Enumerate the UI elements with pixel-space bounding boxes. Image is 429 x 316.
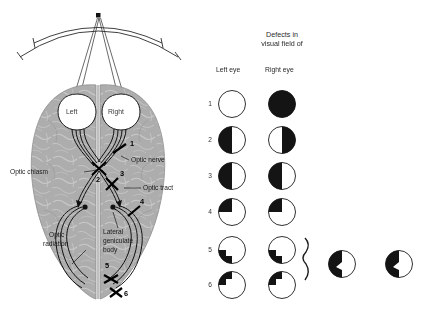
fixation-point-marker	[96, 13, 101, 18]
defect-row-number-2: 2	[202, 136, 212, 144]
column-title-left-eye: Left eye	[216, 66, 240, 74]
lesion-number-3: 3	[120, 170, 124, 179]
defect-row-number-5: 5	[202, 246, 212, 254]
defect-row-6	[219, 272, 296, 299]
label-optic-chiasm: Optic chiasm	[10, 168, 48, 176]
defect-row-1	[219, 91, 296, 118]
visual-field-arc	[17, 28, 181, 61]
defect-left-eye-1	[219, 91, 246, 118]
label-optic-tract: Optic tract	[143, 184, 173, 192]
eye-label-right: Right	[108, 108, 124, 116]
lesion-number-4: 4	[140, 198, 144, 207]
lesion-number-6: 6	[124, 290, 128, 299]
label-optic-radiation-line2: radiation	[43, 240, 68, 248]
defect-row-number-6: 6	[202, 281, 212, 289]
lesion-number-5: 5	[105, 262, 109, 271]
label-optic-nerve: Optic nerve	[131, 156, 165, 164]
defect-chart-title-line2: visual field of	[232, 40, 332, 48]
lesion-number-2: 2	[96, 176, 100, 185]
label-lgb-line1: Lateral	[103, 228, 123, 236]
defect-right-eye-1	[269, 91, 296, 118]
brain-axial-section	[31, 85, 164, 299]
column-title-right-eye: Right eye	[265, 66, 294, 74]
defect-row-number-3: 3	[202, 172, 212, 180]
defect-row-3	[218, 163, 295, 190]
label-lgb-line3: body	[103, 246, 117, 254]
figure-canvas	[0, 0, 429, 316]
visual-pathway-figure: Defects in visual field of Left eye Righ…	[0, 0, 429, 316]
defect-row-number-4: 4	[202, 208, 212, 216]
brace-rows-5-6	[303, 238, 308, 280]
defect-macular-sparing-extra-2	[386, 251, 413, 278]
sight-lines	[74, 18, 124, 96]
defect-row-5	[219, 237, 296, 264]
eye-label-left: Left	[66, 108, 77, 116]
lesion-number-1: 1	[130, 140, 134, 149]
defect-row-2	[218, 127, 295, 154]
defect-row-number-1: 1	[202, 100, 212, 108]
defect-row-4	[219, 199, 296, 226]
label-lgb-line2: geniculate	[103, 237, 133, 245]
visual-field-defect-chart	[303, 238, 308, 280]
defect-macular-sparing-extra-1	[329, 251, 356, 278]
label-optic-radiation-line1: Optic	[49, 231, 64, 239]
